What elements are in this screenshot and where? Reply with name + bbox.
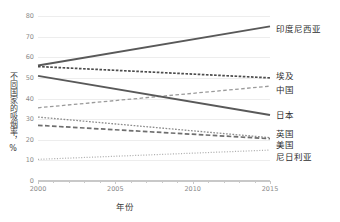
x-axis-minor-tick	[53, 181, 54, 183]
series-label: 埃及	[276, 69, 294, 81]
plot-area: 01020304050607080 2000200520102015	[38, 16, 270, 181]
y-axis-tick-label: 60	[26, 53, 34, 61]
y-axis-tick-label: 10	[26, 156, 34, 164]
series-line	[38, 150, 270, 159]
series-label: 尼日利亚	[276, 150, 312, 162]
x-axis-tick-mark	[270, 181, 271, 184]
y-axis-tick-label: 50	[26, 74, 34, 82]
x-axis-minor-tick	[162, 181, 163, 183]
x-axis-minor-tick	[100, 181, 101, 183]
x-axis-tick-mark	[38, 181, 39, 184]
x-axis-tick-mark	[193, 181, 194, 184]
series-line	[38, 76, 270, 115]
x-axis-minor-tick	[239, 181, 240, 183]
x-axis-tick-label: 2010	[184, 185, 201, 193]
y-axis-tick-label: 0	[30, 177, 34, 185]
x-axis-tick-label: 2015	[262, 185, 279, 193]
series-line	[38, 26, 270, 65]
x-axis-tick-label: 2000	[30, 185, 47, 193]
series-line	[38, 86, 270, 108]
x-axis-minor-tick	[84, 181, 85, 183]
y-axis-tick-label: 20	[26, 136, 34, 144]
series-label: 印度尼西亚	[276, 22, 321, 34]
y-axis-tick-label: 80	[26, 12, 34, 20]
series-label: 美国	[276, 138, 294, 150]
x-axis-minor-tick	[177, 181, 178, 183]
y-axis-tick-label: 40	[26, 95, 34, 103]
x-axis-minor-tick	[131, 181, 132, 183]
series-label: 英国	[276, 127, 294, 139]
x-axis-minor-tick	[69, 181, 70, 183]
y-axis-tick-label: 70	[26, 33, 34, 41]
x-axis-minor-tick	[146, 181, 147, 183]
x-axis-minor-tick	[255, 181, 256, 183]
x-axis-title: 年份	[0, 200, 340, 212]
y-axis-title: 不同国家的吸烟率，%	[6, 50, 20, 175]
smoking-rate-line-chart: 不同国家的吸烟率，% 年份 01020304050607080 20002005…	[0, 0, 340, 222]
series-label: 日本	[276, 108, 294, 120]
series-line	[38, 67, 270, 78]
series-label: 中国	[276, 83, 294, 95]
x-axis-minor-tick	[224, 181, 225, 183]
x-axis-tick-label: 2005	[107, 185, 124, 193]
x-axis-tick-mark	[115, 181, 116, 184]
y-axis-tick-label: 30	[26, 115, 34, 123]
x-axis-title-text: 年份	[116, 202, 134, 212]
x-axis-minor-tick	[208, 181, 209, 183]
series-line	[38, 117, 270, 138]
series-lines	[38, 16, 270, 181]
gridline	[38, 181, 270, 182]
